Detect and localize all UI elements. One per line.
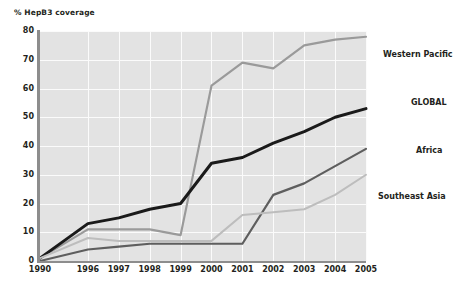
x-axis-line xyxy=(37,261,366,263)
series-line-southeast-asia xyxy=(40,175,366,258)
x-tick-1996: 1996 xyxy=(77,266,99,274)
plot-area xyxy=(40,31,366,261)
series-line-africa xyxy=(40,149,366,261)
y-tick-60: 60 xyxy=(0,85,34,93)
x-tick-2003: 2003 xyxy=(293,266,315,274)
y-tick-80: 80 xyxy=(0,27,34,35)
y-tick-70: 70 xyxy=(0,56,34,64)
y-axis-line xyxy=(37,30,40,262)
x-axis-tick-labels: 1990199619971998199920002001200220032004… xyxy=(0,266,461,280)
x-tick-1990: 1990 xyxy=(29,266,51,274)
hepb3-coverage-chart: % HepB3 coverage 01020304050607080 19901… xyxy=(0,0,461,285)
y-tick-10: 10 xyxy=(0,228,34,236)
x-tick-2000: 2000 xyxy=(200,266,222,274)
x-tick-1999: 1999 xyxy=(169,266,191,274)
chart-axis-title: % HepB3 coverage xyxy=(14,8,95,17)
y-tick-30: 30 xyxy=(0,171,34,179)
series-label-western-pacific: Western Pacific xyxy=(383,51,453,59)
x-tick-1998: 1998 xyxy=(139,266,161,274)
x-tick-2001: 2001 xyxy=(231,266,253,274)
x-tick-2005: 2005 xyxy=(355,266,377,274)
series-label-africa: Africa xyxy=(416,147,443,155)
x-tick-2002: 2002 xyxy=(262,266,284,274)
series-label-global: GLOBAL xyxy=(411,99,447,107)
x-tick-2004: 2004 xyxy=(324,266,346,274)
y-axis-tick-labels: 01020304050607080 xyxy=(0,31,34,261)
vertical-gridline-2005 xyxy=(366,31,367,261)
series-label-southeast-asia: Southeast Asia xyxy=(378,193,446,201)
series-lines xyxy=(40,31,366,261)
y-tick-50: 50 xyxy=(0,113,34,121)
y-tick-40: 40 xyxy=(0,142,34,150)
y-tick-20: 20 xyxy=(0,200,34,208)
y-tick-0: 0 xyxy=(0,257,34,265)
x-tick-1997: 1997 xyxy=(108,266,130,274)
